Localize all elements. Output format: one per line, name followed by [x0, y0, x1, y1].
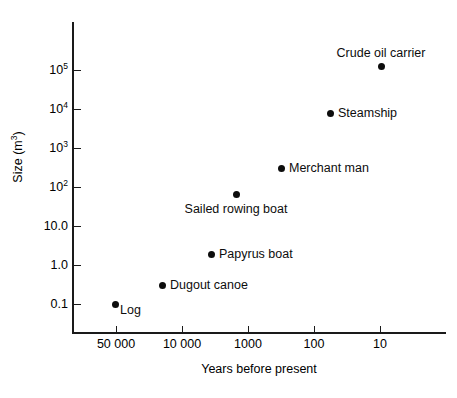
y-tick-exponent: 3 — [63, 139, 68, 149]
y-tick-mantissa: 1.0 — [51, 258, 68, 272]
data-point-label: Steamship — [338, 106, 397, 120]
y-tick-mark — [74, 70, 81, 71]
y-axis-title-tail: ) — [11, 131, 25, 135]
y-tick-mantissa: 10.0 — [44, 219, 68, 233]
y-tick-mark — [74, 304, 81, 305]
data-point — [208, 251, 215, 258]
x-tick-mark — [314, 326, 315, 333]
data-point-label: Dugout canoe — [170, 278, 248, 292]
y-tick-mantissa: 10 — [49, 102, 63, 116]
y-tick-mantissa: 10 — [49, 141, 63, 155]
x-tick-mark — [182, 326, 183, 333]
data-point-label: Crude oil carrier — [337, 46, 426, 60]
y-axis-title: Size (m3) — [11, 107, 25, 207]
x-tick-label: 10 — [335, 337, 425, 351]
y-tick-mantissa: 10 — [49, 180, 63, 194]
x-tick-mark — [380, 326, 381, 333]
y-tick-mantissa: 0.1 — [51, 297, 68, 311]
y-tick-label: 105 — [14, 64, 68, 76]
y-tick-label: 10.0 — [14, 220, 68, 232]
y-tick-label: 0.1 — [14, 298, 68, 310]
data-point — [378, 63, 385, 70]
y-tick-mark — [74, 265, 81, 266]
data-point — [112, 301, 119, 308]
data-point-label: Log — [120, 303, 141, 317]
x-axis-title: Years before present — [72, 362, 446, 376]
scatter-chart: 10510410310210.01.00.1 50 00010 00010001… — [0, 0, 457, 398]
x-axis-line — [72, 332, 446, 334]
y-axis-title-text: Size (m — [11, 140, 25, 182]
y-tick-exponent: 4 — [63, 100, 68, 110]
y-tick-exponent: 5 — [63, 61, 68, 71]
y-axis-line — [72, 22, 74, 334]
data-point-label: Papyrus boat — [219, 247, 293, 261]
y-tick-mantissa: 10 — [49, 63, 63, 77]
y-tick-mark — [74, 187, 81, 188]
y-tick-exponent: 2 — [63, 178, 68, 188]
y-tick-mark — [74, 226, 81, 227]
y-axis-title-exponent: 3 — [9, 136, 19, 141]
data-point-label: Merchant man — [289, 161, 369, 175]
y-tick-mark — [74, 148, 81, 149]
data-point — [327, 110, 334, 117]
y-tick-label: 1.0 — [14, 259, 68, 271]
data-point — [233, 191, 240, 198]
x-tick-mark — [116, 326, 117, 333]
y-tick-mark — [74, 109, 81, 110]
x-tick-mark — [248, 326, 249, 333]
data-point — [278, 165, 285, 172]
data-point-label: Sailed rowing boat — [185, 202, 288, 216]
data-point — [159, 282, 166, 289]
